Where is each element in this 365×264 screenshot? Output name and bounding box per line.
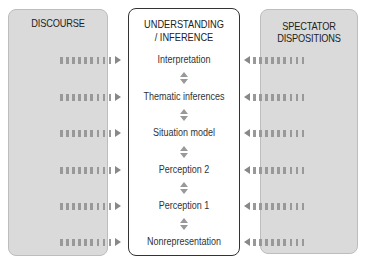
dashed-arrow-left-icon [244,93,308,101]
title-line-2: DISPOSITIONS [267,32,351,44]
level-situation-model: Situation model [135,127,234,138]
dashed-arrow-right-icon [60,166,121,174]
understanding-inference-title: UNDERSTANDING / INFERENCE [136,18,233,44]
up-down-arrow-icon [180,182,188,194]
level-nonrepresentation: Nonrepresentation [135,236,234,247]
dashed-arrow-right-icon [60,129,121,137]
dashed-arrow-right-icon [60,238,121,246]
level-perception-2: Perception 2 [135,164,234,175]
dashed-arrow-left-icon [244,202,308,210]
dashed-arrow-left-icon [244,166,308,174]
understanding-inference-panel: UNDERSTANDING / INFERENCE Interpretation… [128,8,240,256]
dashed-arrow-left-icon [244,238,308,246]
up-down-arrow-icon [180,218,188,230]
dashed-arrow-right-icon [60,56,121,64]
up-down-arrow-icon [180,109,188,121]
dashed-arrow-left-icon [244,56,308,64]
up-down-arrow-icon [180,72,188,84]
title-line-1: SPECTATOR [267,20,351,32]
dashed-arrow-right-icon [60,93,121,101]
level-perception-1: Perception 1 [135,200,234,211]
level-thematic-inferences: Thematic inferences [135,91,234,102]
up-down-arrow-icon [180,146,188,158]
level-interpretation: Interpretation [135,54,234,65]
discourse-title: DISCOURSE [15,17,101,29]
spectator-dispositions-title: SPECTATOR DISPOSITIONS [267,20,351,44]
dashed-arrow-right-icon [60,202,121,210]
dashed-arrow-left-icon [244,129,308,137]
title-line-2: / INFERENCE [136,31,233,44]
title-line-1: UNDERSTANDING [136,18,233,31]
